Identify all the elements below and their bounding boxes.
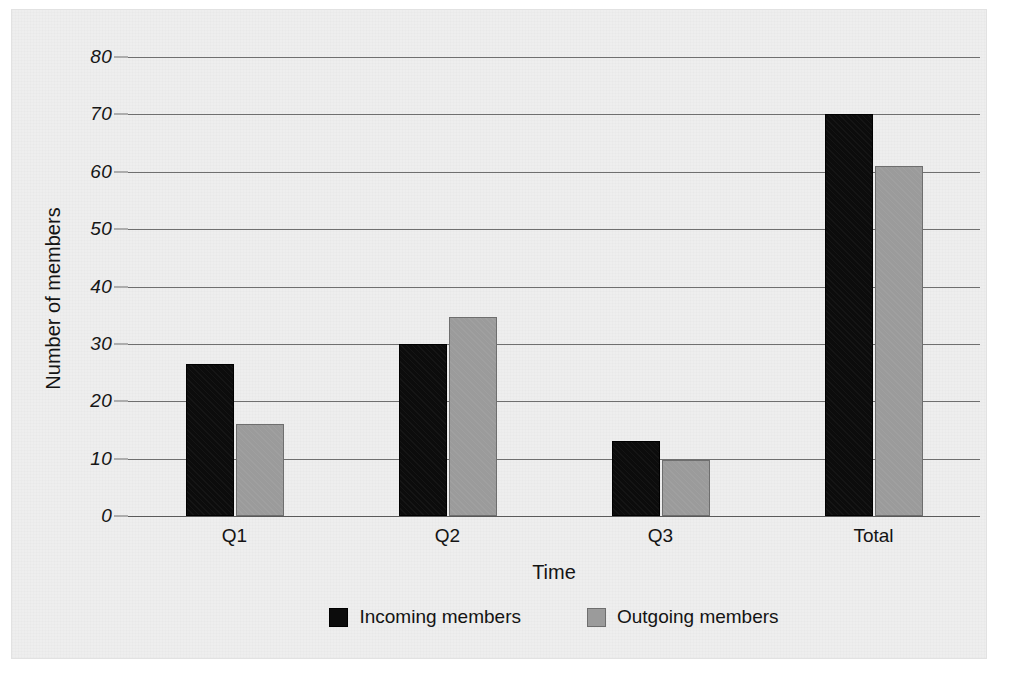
- y-axis-tick-mark: [114, 57, 128, 58]
- x-axis-tick-label: Q1: [222, 525, 247, 547]
- x-axis-tick-label: Q3: [648, 525, 673, 547]
- chart-panel: Q1Q2Q3Total 01020304050607080 Time Numbe…: [12, 10, 986, 658]
- x-axis-title: Time: [128, 561, 980, 584]
- chart-figure: Q1Q2Q3Total 01020304050607080 Time Numbe…: [0, 0, 1012, 676]
- y-axis-tick-mark: [114, 286, 128, 287]
- legend-item: Incoming members: [329, 606, 521, 628]
- y-axis-ticks: 01020304050607080: [128, 57, 980, 516]
- legend-label: Incoming members: [359, 606, 521, 628]
- x-axis-tick-label: Total: [853, 525, 893, 547]
- y-axis-tick-mark: [114, 343, 128, 344]
- y-axis-tick-mark: [114, 229, 128, 230]
- chart-legend: Incoming membersOutgoing members: [128, 606, 980, 628]
- y-axis-tick-mark: [114, 516, 128, 517]
- x-axis-tick-label: Q2: [435, 525, 460, 547]
- y-axis-tick-label: 80: [40, 46, 112, 68]
- y-axis-tick-mark: [114, 171, 128, 172]
- x-axis-line: [128, 516, 980, 517]
- y-axis-title: Number of members: [42, 89, 65, 509]
- legend-swatch-icon: [587, 608, 606, 627]
- legend-label: Outgoing members: [617, 606, 779, 628]
- legend-item: Outgoing members: [587, 606, 779, 628]
- y-axis-tick-mark: [114, 114, 128, 115]
- legend-swatch-icon: [329, 608, 348, 627]
- y-axis-tick-mark: [114, 458, 128, 459]
- y-axis-tick-mark: [114, 401, 128, 402]
